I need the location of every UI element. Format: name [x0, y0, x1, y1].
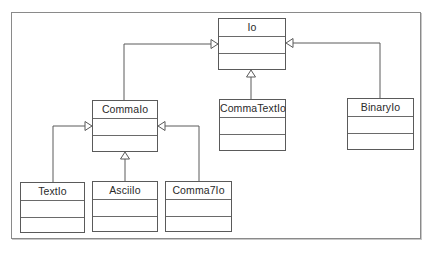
operations-compartment: [348, 134, 413, 149]
uml-class-diagram: Io CommaIo CommaTextIo BinaryIo TextIo A…: [0, 0, 433, 253]
generalization-line: [293, 43, 380, 98]
class-name: Comma7Io: [166, 182, 231, 200]
class-commaio[interactable]: CommaIo: [92, 100, 158, 152]
class-name: AsciiIo: [93, 182, 157, 200]
inheritance-arrowhead-icon: [121, 152, 130, 159]
operations-compartment: [21, 218, 84, 232]
operations-compartment: [93, 136, 157, 151]
operations-compartment: [219, 54, 285, 69]
inheritance-arrowhead-icon: [158, 122, 165, 131]
inheritance-arrowhead-icon: [286, 39, 293, 48]
class-textio[interactable]: TextIo: [20, 182, 85, 233]
attributes-compartment: [93, 200, 157, 217]
inheritance-arrowhead-icon: [247, 70, 256, 77]
class-asciiio[interactable]: AsciiIo: [92, 181, 158, 232]
generalization-line: [165, 126, 199, 181]
attributes-compartment: [220, 118, 285, 135]
class-binaryio[interactable]: BinaryIo: [347, 98, 414, 150]
attributes-compartment: [166, 200, 231, 217]
operations-compartment: [166, 217, 231, 231]
inheritance-arrowhead-icon: [85, 122, 92, 131]
operations-compartment: [220, 135, 285, 150]
generalization-line: [53, 126, 85, 182]
attributes-compartment: [219, 37, 285, 54]
operations-compartment: [93, 217, 157, 231]
class-name: Io: [219, 19, 285, 37]
class-name: CommaTextIo: [220, 100, 285, 118]
class-io[interactable]: Io: [218, 18, 286, 70]
class-name: TextIo: [21, 183, 84, 201]
class-comma7io[interactable]: Comma7Io: [165, 181, 232, 232]
attributes-compartment: [348, 117, 413, 134]
inheritance-arrowhead-icon: [211, 40, 218, 49]
generalization-line: [124, 44, 211, 100]
class-name: CommaIo: [93, 101, 157, 119]
class-commatextio[interactable]: CommaTextIo: [219, 99, 286, 151]
attributes-compartment: [93, 119, 157, 136]
class-name: BinaryIo: [348, 99, 413, 117]
attributes-compartment: [21, 201, 84, 218]
